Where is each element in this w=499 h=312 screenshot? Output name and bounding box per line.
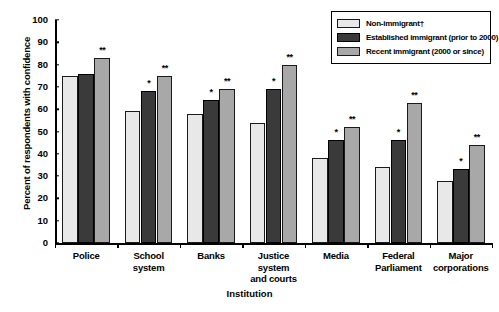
y-tick-mark-20 bbox=[55, 198, 59, 199]
y-tick-label-60: 60 bbox=[0, 104, 48, 114]
y-tick-label-40: 40 bbox=[0, 149, 48, 159]
bar bbox=[312, 158, 328, 243]
x-category-label: Media bbox=[305, 250, 367, 262]
x-category-label: Majorcorporations bbox=[430, 250, 492, 273]
y-tick-mark-50 bbox=[55, 131, 59, 132]
bar bbox=[125, 111, 141, 243]
bar bbox=[375, 167, 391, 243]
significance-marker: * bbox=[266, 77, 282, 86]
bar bbox=[187, 114, 203, 243]
bar bbox=[453, 169, 469, 243]
y-tick-label-10: 10 bbox=[0, 216, 48, 226]
y-tick-label-100: 100 bbox=[0, 15, 48, 25]
x-axis-separator bbox=[305, 243, 306, 248]
significance-marker: * bbox=[453, 157, 469, 166]
y-tick-mark-100 bbox=[55, 19, 59, 20]
y-tick-mark-90 bbox=[55, 42, 59, 43]
y-tick-label-90: 90 bbox=[0, 38, 48, 48]
significance-marker: * bbox=[391, 128, 407, 137]
x-category-label: School system bbox=[117, 250, 179, 273]
significance-marker: ** bbox=[219, 77, 235, 86]
y-tick-mark-60 bbox=[55, 108, 59, 109]
x-category-label-line: School system bbox=[117, 250, 179, 273]
y-tick-mark-30 bbox=[55, 175, 59, 176]
x-axis-separator bbox=[367, 243, 368, 248]
bar bbox=[391, 140, 407, 243]
legend: Non-immigrant† Established immigrant (pr… bbox=[331, 11, 491, 64]
legend-label-established-immigrant: Established immigrant (prior to 2000) bbox=[366, 33, 498, 42]
bar bbox=[250, 123, 266, 243]
bar bbox=[203, 100, 219, 243]
legend-item-recent-immigrant: Recent immigrant (2000 or since) bbox=[337, 45, 485, 58]
bar bbox=[469, 145, 485, 243]
x-axis-separator-edge-right bbox=[492, 243, 493, 248]
x-axis-separator bbox=[117, 243, 118, 248]
bar bbox=[157, 76, 173, 243]
legend-swatch-non-immigrant bbox=[337, 19, 360, 28]
significance-marker: * bbox=[328, 128, 344, 137]
y-tick-mark-80 bbox=[55, 64, 59, 65]
x-axis-separator bbox=[180, 243, 181, 248]
x-category-label-line: Justice system bbox=[242, 250, 304, 273]
bar bbox=[219, 89, 235, 243]
bar bbox=[282, 65, 298, 243]
x-axis-separator bbox=[430, 243, 431, 248]
y-tick-label-80: 80 bbox=[0, 60, 48, 70]
y-tick-mark-40 bbox=[55, 153, 59, 154]
x-category-label-line: Major bbox=[430, 250, 492, 262]
bar bbox=[94, 58, 110, 243]
significance-marker: ** bbox=[344, 115, 360, 124]
x-category-label-line: Parliament bbox=[367, 262, 429, 274]
x-category-label-line: Banks bbox=[180, 250, 242, 262]
y-tick-label-70: 70 bbox=[0, 82, 48, 92]
x-axis-line bbox=[55, 243, 492, 245]
bar bbox=[266, 89, 282, 243]
x-category-label: Police bbox=[55, 250, 117, 262]
x-category-label-line: Media bbox=[305, 250, 367, 262]
significance-marker: ** bbox=[157, 64, 173, 73]
bar bbox=[328, 140, 344, 243]
x-category-label: Justice systemand courts bbox=[242, 250, 304, 285]
y-tick-label-20: 20 bbox=[0, 194, 48, 204]
significance-marker: ** bbox=[94, 46, 110, 55]
y-tick-mark-70 bbox=[55, 86, 59, 87]
bar bbox=[78, 74, 94, 243]
legend-label-non-immigrant: Non-immigrant† bbox=[366, 19, 424, 28]
y-tick-label-50: 50 bbox=[0, 127, 48, 137]
x-category-label: FederalParliament bbox=[367, 250, 429, 273]
x-axis-separator-edge-left bbox=[55, 243, 56, 248]
y-tick-label-30: 30 bbox=[0, 171, 48, 181]
significance-marker: ** bbox=[469, 133, 485, 142]
bar-chart: Percent of respondents with confidence 0… bbox=[0, 0, 499, 312]
x-category-label-line: Federal bbox=[367, 250, 429, 262]
y-tick-label-0: 0 bbox=[0, 238, 48, 248]
legend-item-non-immigrant: Non-immigrant† bbox=[337, 17, 485, 30]
bar bbox=[62, 76, 78, 243]
x-axis-separator bbox=[242, 243, 243, 248]
significance-marker: * bbox=[141, 79, 157, 88]
significance-marker: * bbox=[203, 88, 219, 97]
x-axis-title: Institution bbox=[0, 288, 499, 299]
significance-marker: ** bbox=[407, 91, 423, 100]
x-category-label-line: Police bbox=[55, 250, 117, 262]
legend-label-recent-immigrant: Recent immigrant (2000 or since) bbox=[366, 47, 484, 56]
x-category-label-line: corporations bbox=[430, 262, 492, 274]
significance-marker: ** bbox=[282, 53, 298, 62]
y-tick-mark-10 bbox=[55, 220, 59, 221]
bar bbox=[141, 91, 157, 243]
x-category-label: Banks bbox=[180, 250, 242, 262]
legend-swatch-established-immigrant bbox=[337, 33, 360, 42]
bar bbox=[344, 127, 360, 243]
legend-item-established-immigrant: Established immigrant (prior to 2000) bbox=[337, 31, 485, 44]
bar bbox=[407, 103, 423, 243]
x-category-label-line: and courts bbox=[242, 273, 304, 285]
bar bbox=[437, 181, 453, 243]
legend-swatch-recent-immigrant bbox=[337, 47, 360, 56]
